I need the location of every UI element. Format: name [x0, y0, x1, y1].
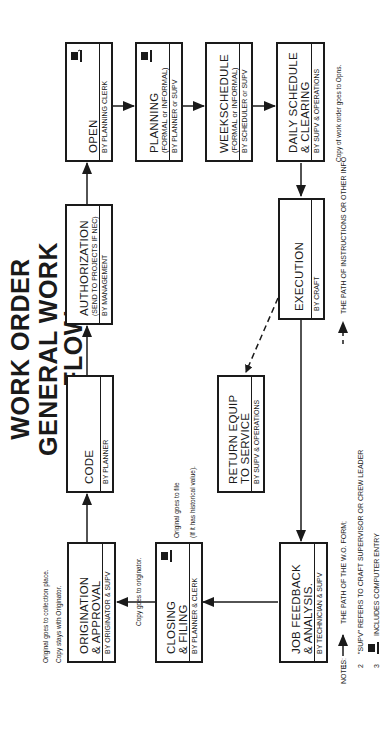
code-by: BY PLANNER [99, 377, 112, 491]
computer-entry-icon [160, 549, 174, 563]
note-1-solid-text: THE PATH OF THE W.O. FORM; [340, 521, 347, 624]
box-open: OPEN BY PLANNING CLERK [65, 42, 113, 162]
note-2-text: "SUPV" REFERS TO CRAFT SUPERVISOR OR CRE… [357, 450, 364, 654]
planning-by: BY PLANNER or SUPV [168, 44, 181, 160]
weekschedule-title: WEEKSCHEDULE [218, 44, 230, 153]
box-daily-schedule: DAILY SCHEDULE & CLEARING BY SUPV & OPER… [276, 42, 325, 162]
execution-title: EXECUTION [293, 200, 305, 311]
box-code: CODE BY PLANNER [66, 375, 114, 493]
authorization-title: AUTHORIZATION [78, 206, 90, 316]
note-1-number: 1. [340, 662, 347, 668]
box-origination: ORIGINATION & APPROVAL BY ORIGINATOR & S… [67, 542, 116, 663]
box-closing: CLOSING & FILING BY PLANNER & CLERK [155, 542, 203, 663]
box-execution: EXECUTION BY CRAFT [278, 198, 325, 320]
closing-file-note-1: Original goes to file [174, 482, 181, 538]
work-order-flow-diagram: WORK ORDER GENERAL WORK FLOW [0, 0, 383, 734]
closing-file-note-2: (If it has historical value). [190, 466, 197, 538]
note-1-dashed-text: THE PATH OF INSTRUCTIONS OR OTHER INFO [340, 157, 347, 314]
closing-copy-note: Copy goes to originator. [136, 557, 143, 626]
note-3-text: INCLUDES COMPUTER ENTRY [373, 533, 380, 636]
origination-note-1: Original goes to collection place. [43, 569, 50, 663]
daily-title-line-1: DAILY SCHEDULE [287, 44, 299, 153]
box-job-feedback: JOB FEEDBACK & ANALYSIS. BY TECHNICIAN &… [279, 542, 328, 663]
feedback-by: BY TECHNICIAN & SUPV [313, 544, 326, 661]
box-weekschedule: WEEKSCHEDULE (FORMAL or INFORMAL) BY SCH… [205, 42, 253, 162]
computer-entry-icon [367, 641, 381, 655]
daily-copy-note: Copy of work order goes to Opns. [336, 65, 343, 162]
code-title: CODE [83, 377, 95, 484]
box-authorization: AUTHORIZATION (SEND TO PROJECTS IF NEC) … [65, 204, 113, 325]
note-2-number: 2 [357, 664, 364, 668]
origination-note-2: Copy stays with Originator. [56, 586, 63, 663]
execution-by: BY CRAFT [310, 200, 323, 318]
authorization-by: BY MANAGEMENT [98, 206, 111, 323]
box-return-equip: RETURN EQUIP TO SERVICE BY SUPV & OPERAT… [217, 375, 265, 493]
note-3-number: 3 [373, 664, 380, 668]
feedback-title-line-1: JOB FEEDBACK [290, 544, 302, 654]
closing-by: BY PLANNER & CLERK [188, 544, 201, 661]
box-planning: PLANNING (FORMAL or INFORMAL) BY PLANNER… [135, 42, 183, 162]
origination-by: BY ORIGINATOR & SUPV [101, 544, 114, 661]
origination-title-line-1: ORIGINATION [78, 544, 90, 654]
weekschedule-by: BY SCHEDULER or SUPV [238, 44, 251, 160]
computer-entry-icon [140, 49, 154, 63]
open-by: BY PLANNING CLERK [98, 44, 111, 160]
daily-by: BY SUPV & OPERATIONS [310, 44, 323, 160]
return-by: BY SUPV & OPERATIONS [250, 377, 263, 491]
dashed-arrow-execution-to-return [246, 298, 278, 372]
return-title-line-1: RETURN EQUIP [227, 377, 239, 484]
computer-entry-icon [70, 49, 84, 63]
